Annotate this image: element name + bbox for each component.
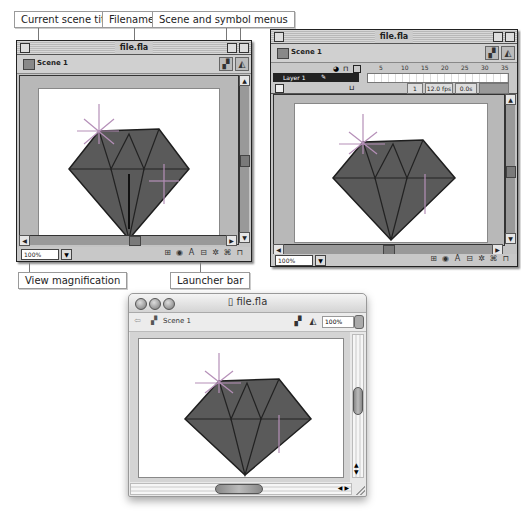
current-scene-title: Scene 1 xyxy=(37,59,68,67)
elapsed-time-field: 0.0s xyxy=(455,83,477,94)
stage-canvas xyxy=(38,88,220,238)
scene-bar: Scene 1 ▞ ◭ xyxy=(17,55,251,74)
edit-symbol-menu-icon[interactable]: ◭ xyxy=(307,315,319,327)
title-bar[interactable]: file.fla xyxy=(17,41,251,55)
scroll-thumb[interactable] xyxy=(215,484,263,494)
collapse-box[interactable] xyxy=(239,43,249,53)
zoom-button[interactable] xyxy=(163,298,175,310)
library-icon[interactable]: ⊓ xyxy=(235,248,244,257)
flash-document-window-classic: file.fla Scene 1 ▞ ◭ ▲ xyxy=(16,40,252,262)
close-box[interactable] xyxy=(20,43,30,53)
stage-area xyxy=(19,75,239,245)
layer-name: Layer 1 xyxy=(283,74,305,81)
align-icon[interactable]: ⊟ xyxy=(199,248,208,257)
mixer-icon[interactable]: ✲ xyxy=(211,248,220,257)
edit-symbol-menu-icon[interactable]: ◭ xyxy=(501,46,515,60)
vertical-scrollbar[interactable]: ▲ ▼ xyxy=(505,94,515,244)
transform-icon[interactable]: ◉ xyxy=(175,248,184,257)
timeline-panel: ◕ ⊓ 5 10 15 20 25 30 35 Layer 1 ✎ ⊔ 1 12… xyxy=(271,63,517,94)
current-scene-title: Scene 1 xyxy=(291,48,322,56)
launcher-bar: ⊞ ◉ A ⊟ ✲ ⌘ ⊓ xyxy=(163,248,244,257)
zoom-box[interactable] xyxy=(227,43,237,53)
lock-icon[interactable]: ⊓ xyxy=(343,65,348,73)
scroll-thumb[interactable] xyxy=(240,155,250,167)
vertical-scrollbar[interactable]: ▲ ▼ xyxy=(239,75,249,243)
instance-icon[interactable]: ⌘ xyxy=(223,248,232,257)
timeline-hscroll[interactable] xyxy=(479,83,509,94)
collapse-box[interactable] xyxy=(505,32,515,42)
text-icon[interactable]: A xyxy=(187,248,196,257)
frame-rate-field: 12.0 fps xyxy=(425,83,453,94)
scroll-arrows[interactable]: ▲▼ xyxy=(354,461,359,475)
frames-area[interactable] xyxy=(367,73,509,83)
launcher-bar: ⊞ ◉ A ⊟ ✲ ⌘ ⊓ xyxy=(429,254,510,263)
bottom-bar: 100% ▼ ⊞ ◉ A ⊟ ✲ ⌘ ⊓ xyxy=(17,247,251,261)
diamond-graphic xyxy=(295,104,487,242)
horizontal-scrollbar[interactable]: ◀ ▶ xyxy=(19,235,237,245)
scroll-arrows[interactable]: ◀ ▶ xyxy=(338,484,349,491)
title-bar[interactable]: ▯ file.fla xyxy=(129,294,366,313)
horizontal-scrollbar[interactable]: ◀ ▶ xyxy=(130,483,352,495)
scroll-up-arrow[interactable]: ▲ xyxy=(505,94,516,105)
scroll-left-arrow[interactable]: ◀ xyxy=(19,235,30,246)
magnification-dropdown-button[interactable] xyxy=(354,315,364,329)
scene-bar: Scene 1 ▞ ◭ xyxy=(271,44,517,63)
stage-canvas xyxy=(294,103,488,243)
callout-view-magnification: View magnification xyxy=(18,272,127,289)
edit-scene-menu-icon[interactable]: ▞ xyxy=(292,315,304,327)
close-box[interactable] xyxy=(274,32,284,42)
text-icon[interactable]: A xyxy=(453,254,462,263)
magnification-dropdown-button[interactable]: ▼ xyxy=(315,255,326,266)
diamond-graphic xyxy=(139,339,343,477)
align-icon[interactable]: ⊟ xyxy=(465,254,474,263)
back-arrow-icon[interactable]: ⇦ xyxy=(134,316,141,325)
resize-grip[interactable] xyxy=(355,485,365,495)
scroll-down-arrow[interactable]: ▼ xyxy=(505,233,516,244)
window-title: ▯ file.fla xyxy=(228,296,268,307)
info-icon[interactable]: ⊞ xyxy=(163,248,172,257)
diamond-graphic xyxy=(39,89,219,237)
scroll-thumb[interactable] xyxy=(129,236,141,246)
horizontal-scrollbar[interactable]: ◀ ▶ xyxy=(273,244,503,254)
edit-symbol-menu-icon[interactable]: ◭ xyxy=(235,57,249,71)
scene-icon xyxy=(23,59,35,70)
stage-area xyxy=(130,332,350,482)
scroll-down-arrow[interactable]: ▼ xyxy=(239,232,250,243)
trash-icon[interactable]: ⊔ xyxy=(349,84,354,92)
add-layer-icon[interactable] xyxy=(275,84,284,93)
edit-scene-menu-icon[interactable]: ▞ xyxy=(219,57,233,71)
zoom-box[interactable] xyxy=(493,32,503,42)
flash-document-window-aqua: ▯ file.fla ⇦ ▞ Scene 1 ▞ ◭ 100% ▲ xyxy=(128,293,367,497)
vertical-scrollbar[interactable]: ▲▼ xyxy=(352,334,364,478)
mixer-icon[interactable]: ✲ xyxy=(477,254,486,263)
library-icon[interactable]: ⊓ xyxy=(501,254,510,263)
window-title: file.fla xyxy=(115,41,153,54)
stage-area xyxy=(273,94,505,246)
instance-icon[interactable]: ⌘ xyxy=(489,254,498,263)
callout-launcher-bar: Launcher bar xyxy=(170,272,250,289)
scene-icon xyxy=(277,48,289,59)
scroll-thumb[interactable] xyxy=(353,387,363,415)
scene-bar: ⇦ ▞ Scene 1 ▞ ◭ 100% xyxy=(129,313,366,332)
scroll-right-arrow[interactable]: ▶ xyxy=(226,235,237,246)
leader-line xyxy=(29,262,30,272)
info-icon[interactable]: ⊞ xyxy=(429,254,438,263)
view-magnification-field[interactable]: 100% xyxy=(322,316,354,328)
close-button[interactable] xyxy=(135,298,147,310)
scroll-up-arrow[interactable]: ▲ xyxy=(239,75,250,86)
layer-row[interactable]: Layer 1 ✎ xyxy=(273,73,359,82)
flash-document-window-timeline: file.fla Scene 1 ▞ ◭ ◕ ⊓ 5 10 15 20 25 3… xyxy=(270,29,518,267)
outline-icon[interactable] xyxy=(353,65,361,73)
magnification-dropdown-button[interactable]: ▼ xyxy=(61,249,72,260)
scene-icon: ▞ xyxy=(151,316,157,325)
pencil-icon: ✎ xyxy=(321,73,326,80)
current-frame-field: 1 xyxy=(407,83,423,94)
scroll-thumb[interactable] xyxy=(506,166,516,178)
title-bar[interactable]: file.fla xyxy=(271,30,517,44)
edit-scene-menu-icon[interactable]: ▞ xyxy=(485,46,499,60)
minimize-button[interactable] xyxy=(149,298,161,310)
view-magnification-field[interactable]: 100% xyxy=(21,249,59,260)
view-magnification-field[interactable]: 100% xyxy=(275,255,313,266)
eye-icon[interactable]: ◕ xyxy=(333,65,339,73)
transform-icon[interactable]: ◉ xyxy=(441,254,450,263)
